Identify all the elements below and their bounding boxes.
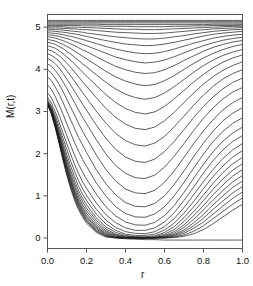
data-curve (48, 28, 243, 34)
data-curve (48, 97, 243, 230)
data-curve (48, 25, 243, 27)
y-tick-label: 4 (28, 63, 41, 74)
x-axis-title: r (141, 269, 144, 280)
plot-frame (48, 15, 243, 249)
y-axis-title: M(r,t) (5, 95, 16, 118)
data-curve (48, 104, 243, 238)
y-tick-label: 5 (28, 21, 41, 32)
x-tick-label: 1.0 (233, 255, 253, 266)
data-curve (48, 103, 243, 238)
data-curve (48, 104, 243, 238)
data-curve (48, 101, 243, 236)
y-tick-label: 1 (28, 190, 41, 201)
data-curve (48, 46, 243, 114)
x-axis-ticks (48, 249, 243, 253)
data-curve (48, 104, 243, 238)
figure-container: 0.00.20.40.60.81.0 012345 r M(r,t) (0, 0, 252, 286)
data-curve (48, 104, 243, 238)
y-axis-ticks (44, 27, 48, 238)
data-curve (48, 70, 243, 194)
y-tick-label: 3 (28, 105, 41, 116)
data-curve (48, 105, 243, 240)
x-tick-label: 0.8 (194, 255, 214, 266)
data-curve (48, 39, 243, 85)
curve-series-group (48, 20, 243, 240)
data-curve (48, 33, 243, 54)
x-tick-label: 0.2 (77, 255, 97, 266)
data-curve (48, 64, 243, 179)
y-tick-label: 2 (28, 148, 41, 159)
y-tick-label: 0 (28, 232, 41, 243)
x-tick-label: 0.6 (155, 255, 175, 266)
x-tick-label: 0.4 (116, 255, 136, 266)
data-curve (48, 103, 243, 238)
data-curve (48, 49, 243, 129)
x-tick-label: 0.0 (38, 255, 58, 266)
data-curve (48, 42, 243, 99)
chart-canvas (0, 0, 252, 286)
